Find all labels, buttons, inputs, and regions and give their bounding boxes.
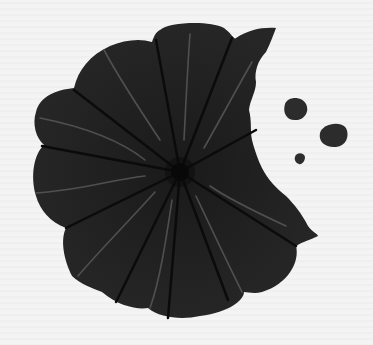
cookie-illustration: Dark scalloped cookie with radial segmen… — [0, 0, 373, 345]
crumb-large-top — [284, 98, 307, 120]
cookie-center — [165, 157, 195, 187]
crumb-small — [295, 153, 305, 164]
crumbs — [284, 98, 347, 164]
crumb-large-right — [320, 124, 348, 147]
cookie-svg — [0, 0, 373, 345]
